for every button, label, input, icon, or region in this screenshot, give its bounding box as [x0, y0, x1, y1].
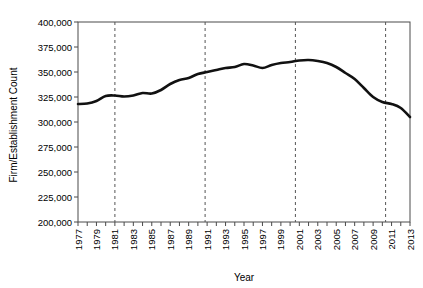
x-tick-label: 2009	[368, 229, 379, 250]
y-tick-labels: 400,000 375,000 350,000 325,000 300,000 …	[38, 17, 72, 228]
x-tick-labels: 1977197919811983198519871989199119931995…	[73, 229, 416, 250]
chart-container: Firm/Establishment Count 400,000 375,000…	[0, 0, 423, 288]
x-tick-label: 1985	[146, 229, 157, 250]
y-tick-label: 250,000	[38, 167, 72, 178]
plot-area-frame	[78, 22, 410, 222]
x-tick-label: 2005	[331, 229, 342, 250]
x-tick-label: 2011	[386, 229, 397, 249]
y-tick-label: 375,000	[38, 42, 72, 53]
y-axis-title: Firm/Establishment Count	[8, 67, 19, 182]
x-tick-label: 1983	[128, 229, 139, 250]
x-tick-label: 2013	[405, 229, 416, 250]
x-axis-ticks	[78, 222, 410, 226]
x-tick-label: 1999	[275, 229, 286, 250]
x-tick-label: 2001	[294, 229, 305, 250]
data-series-line	[78, 60, 410, 117]
y-tick-label: 350,000	[38, 67, 72, 78]
x-tick-label: 1993	[220, 229, 231, 250]
y-tick-label: 275,000	[38, 142, 72, 153]
x-tick-label: 1997	[257, 229, 268, 250]
x-tick-label: 1977	[73, 229, 84, 250]
y-axis-ticks	[74, 22, 78, 222]
x-tick-label: 1995	[239, 229, 250, 250]
x-tick-label: 2007	[349, 229, 360, 250]
y-tick-label: 325,000	[38, 92, 72, 103]
x-tick-label: 1979	[91, 229, 102, 250]
recession-markers	[115, 22, 386, 222]
x-tick-label: 2003	[312, 229, 323, 250]
y-tick-label: 225,000	[38, 192, 72, 203]
x-tick-label: 1981	[109, 229, 120, 250]
y-tick-label: 400,000	[38, 17, 72, 28]
y-tick-label: 300,000	[38, 117, 72, 128]
x-axis-title: Year	[234, 272, 255, 283]
x-tick-label: 1991	[202, 229, 213, 250]
x-tick-label: 1989	[183, 229, 194, 250]
x-tick-label: 1987	[165, 229, 176, 250]
line-chart-svg: Firm/Establishment Count 400,000 375,000…	[0, 0, 423, 288]
y-tick-label: 200,000	[38, 217, 72, 228]
